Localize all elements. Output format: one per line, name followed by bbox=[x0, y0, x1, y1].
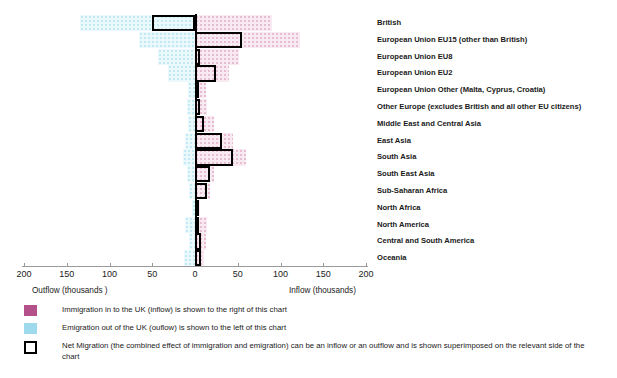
axis-tick bbox=[323, 263, 324, 267]
net-migration-bar bbox=[195, 183, 207, 199]
outflow-bar bbox=[187, 166, 195, 182]
outflow-axis-caption: Outflow (thousands ) bbox=[32, 286, 108, 295]
chart-legend: Immigration in to the UK (inflow) is sho… bbox=[24, 305, 609, 369]
chart-row bbox=[0, 149, 380, 165]
axis-tick-label: 150 bbox=[316, 269, 331, 279]
net-migration-bar bbox=[195, 65, 216, 81]
chart-row bbox=[0, 200, 380, 216]
outflow-bar bbox=[188, 82, 195, 98]
legend-item-outflow: Emigration out of the UK (ouflow) is sho… bbox=[24, 323, 609, 334]
net-migration-swatch-icon bbox=[24, 341, 37, 354]
axis-tick bbox=[67, 263, 68, 267]
category-label: Other Europe (excludes British and all o… bbox=[377, 102, 581, 112]
migration-chart bbox=[0, 0, 380, 262]
category-label: East Asia bbox=[377, 136, 411, 146]
axis-tick-label: 50 bbox=[233, 269, 243, 279]
inflow-axis-caption: Inflow (thousands) bbox=[289, 286, 356, 295]
category-label: Middle East and Central Asia bbox=[377, 119, 481, 129]
axis-tick-label: 200 bbox=[16, 269, 31, 279]
chart-row bbox=[0, 82, 380, 98]
category-label: Central and South America bbox=[377, 236, 474, 246]
chart-row bbox=[0, 116, 380, 132]
chart-row bbox=[0, 65, 380, 81]
outflow-bar bbox=[185, 217, 195, 233]
legend-item-net-label: Net Migration (the combined effect of im… bbox=[62, 341, 602, 362]
axis-tick bbox=[281, 263, 282, 267]
outflow-swatch-icon bbox=[24, 323, 37, 334]
outflow-bar bbox=[158, 49, 195, 65]
axis-tick-label: 50 bbox=[147, 269, 157, 279]
outflow-bar bbox=[168, 65, 195, 81]
net-migration-bar bbox=[195, 166, 210, 182]
category-label: Oceania bbox=[377, 253, 407, 263]
category-label: South Asia bbox=[377, 152, 416, 162]
legend-item-inflow: Immigration in to the UK (inflow) is sho… bbox=[24, 305, 609, 316]
chart-row bbox=[0, 99, 380, 115]
axis-tick bbox=[152, 263, 153, 267]
chart-row bbox=[0, 166, 380, 182]
outflow-bar bbox=[184, 250, 195, 266]
outflow-bar bbox=[187, 99, 195, 115]
chart-row bbox=[0, 183, 380, 199]
category-label: North America bbox=[377, 220, 429, 230]
axis-tick bbox=[110, 263, 111, 267]
chart-row bbox=[0, 217, 380, 233]
chart-row bbox=[0, 233, 380, 249]
legend-item-net: Net Migration (the combined effect of im… bbox=[24, 341, 609, 362]
category-label-list: BritishEuropean Union EU15 (other than B… bbox=[377, 14, 617, 266]
inflow-bar bbox=[195, 49, 239, 65]
outflow-bar bbox=[185, 133, 195, 149]
net-migration-bar bbox=[195, 133, 222, 149]
chart-row bbox=[0, 32, 380, 48]
net-migration-bar bbox=[195, 149, 233, 165]
net-migration-bar bbox=[152, 15, 195, 31]
outflow-bar bbox=[183, 149, 195, 165]
outflow-bar bbox=[188, 116, 195, 132]
chart-row bbox=[0, 15, 380, 31]
axis-tick-label: 200 bbox=[358, 269, 373, 279]
chart-row bbox=[0, 133, 380, 149]
category-label: North Africa bbox=[377, 203, 421, 213]
category-label: Sub-Saharan Africa bbox=[377, 186, 447, 196]
axis-tick-label: 0 bbox=[192, 269, 197, 279]
zero-axis-line bbox=[195, 14, 197, 266]
axis-tick-label: 100 bbox=[273, 269, 288, 279]
axis-tick bbox=[24, 263, 25, 267]
category-label: South East Asia bbox=[377, 169, 435, 179]
category-label: European Union EU2 bbox=[377, 68, 453, 78]
net-migration-bar bbox=[195, 32, 242, 48]
category-label: European Union Other (Malta, Cyprus, Cro… bbox=[377, 85, 545, 95]
legend-item-outflow-label: Emigration out of the UK (ouflow) is sho… bbox=[62, 323, 286, 334]
axis-tick-label: 100 bbox=[102, 269, 117, 279]
outflow-bar bbox=[139, 32, 195, 48]
axis-tick bbox=[238, 263, 239, 267]
inflow-swatch-icon bbox=[24, 305, 37, 316]
category-label: British bbox=[377, 18, 401, 28]
chart-row bbox=[0, 49, 380, 65]
category-label: European Union EU15 (other than British) bbox=[377, 35, 527, 45]
inflow-bar bbox=[195, 15, 272, 31]
axis-tick-label: 150 bbox=[59, 269, 74, 279]
axis-tick bbox=[366, 263, 367, 267]
legend-item-inflow-label: Immigration in to the UK (inflow) is sho… bbox=[62, 305, 287, 316]
category-label: European Union EU8 bbox=[377, 52, 453, 62]
